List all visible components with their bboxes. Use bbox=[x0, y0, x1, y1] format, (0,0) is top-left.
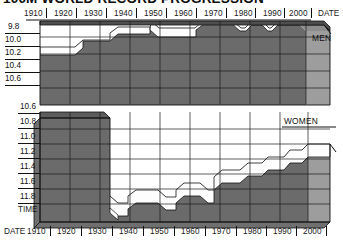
top-tickmark-1970 bbox=[226, 8, 227, 18]
top-tickmark-1950 bbox=[166, 8, 167, 18]
men-panel bbox=[40, 21, 331, 106]
men-yrule-3 bbox=[5, 59, 40, 60]
bottom-tickmark-1990 bbox=[296, 226, 297, 236]
bottom-tick-1980: 1980 bbox=[243, 227, 262, 236]
women-yrule-4 bbox=[18, 158, 40, 159]
top-tickmark-1930 bbox=[106, 8, 107, 18]
men-yrule-2 bbox=[5, 46, 40, 47]
bottom-tickmark-1960 bbox=[205, 226, 206, 236]
women-ytick-11.6: 11.6 bbox=[20, 177, 35, 186]
bottom-tick-1920: 1920 bbox=[57, 227, 76, 236]
top-tick-2000: 2000 bbox=[289, 9, 308, 18]
men-ytick-10.0: 10.0 bbox=[5, 35, 21, 44]
bottom-tickmark-1930 bbox=[112, 226, 113, 236]
bottom-tickmark-1940 bbox=[143, 226, 144, 236]
men-ytick-10.2: 10.2 bbox=[5, 48, 21, 57]
series-label-women: WOMEN bbox=[284, 116, 318, 126]
women-yrule-7 bbox=[18, 203, 40, 204]
bottom-axis-date-label: DATE bbox=[4, 227, 25, 236]
bottom-tick-1940: 1940 bbox=[119, 227, 138, 236]
top-tickmark-1920 bbox=[76, 8, 77, 18]
top-tick-1930: 1930 bbox=[84, 9, 103, 18]
top-tick-1940: 1940 bbox=[114, 9, 133, 18]
bottom-tick-1960: 1960 bbox=[181, 227, 200, 236]
top-tickmark-1910 bbox=[46, 8, 47, 18]
men-yrule-5 bbox=[5, 85, 40, 86]
bottom-tick-1990: 1990 bbox=[273, 227, 292, 236]
top-tickmark-2000 bbox=[311, 8, 312, 18]
bottom-tick-1950: 1950 bbox=[150, 227, 169, 236]
women-yrule-6 bbox=[18, 188, 40, 189]
top-tickmark-1990 bbox=[284, 8, 285, 18]
bottom-tick-1910: 1910 bbox=[27, 227, 46, 236]
top-tickmark-1960 bbox=[196, 8, 197, 18]
men-ytick-9.8: 9.8 bbox=[8, 22, 19, 31]
bottom-tick-1970: 1970 bbox=[212, 227, 231, 236]
top-axis-date-label: DATE bbox=[318, 9, 339, 18]
top-tick-1960: 1960 bbox=[174, 9, 193, 18]
women-yrule-2 bbox=[18, 128, 40, 129]
men-ytick-10.4: 10.4 bbox=[5, 61, 21, 70]
bottom-tickmark-1910 bbox=[50, 226, 51, 236]
top-tick-1910: 1910 bbox=[24, 9, 43, 18]
bottom-tick-1930: 1930 bbox=[88, 227, 107, 236]
chart-root: 100M WORLD RECORD PROGRESSION bbox=[0, 0, 343, 243]
women-ytick-11.0: 11.0 bbox=[20, 132, 35, 141]
men-yrule-4 bbox=[5, 72, 40, 73]
time-axis-label: TIME bbox=[18, 205, 38, 214]
women-yrule-5 bbox=[18, 173, 40, 174]
series-label-men: MEN bbox=[312, 33, 331, 43]
top-tick-1950: 1950 bbox=[144, 9, 163, 18]
bottom-tickmark-1920 bbox=[81, 226, 82, 236]
women-yrule-3 bbox=[18, 143, 40, 144]
bottom-tickmark-1970 bbox=[236, 226, 237, 236]
top-tick-1980: 1980 bbox=[234, 9, 253, 18]
men-yrule-1 bbox=[5, 33, 40, 34]
top-tick-1970: 1970 bbox=[204, 9, 223, 18]
top-tickmark-1980 bbox=[255, 8, 256, 18]
women-panel bbox=[34, 112, 336, 228]
women-ytick-10.6: 10.6 bbox=[20, 102, 36, 111]
women-leader-line bbox=[330, 144, 336, 152]
top-tick-1990: 1990 bbox=[263, 9, 282, 18]
women-yrule-1 bbox=[18, 113, 40, 114]
women-ytick-11.8: 11.8 bbox=[20, 192, 35, 201]
women-ytick-11.2: 11.2 bbox=[20, 147, 35, 156]
top-tickmark-1940 bbox=[136, 8, 137, 18]
bottom-tick-2000: 2000 bbox=[303, 227, 322, 236]
bottom-tickmark-1950 bbox=[174, 226, 175, 236]
bottom-tickmark-1980 bbox=[266, 226, 267, 236]
bottom-tickmark-2000 bbox=[326, 226, 327, 236]
men-ytick-10.6: 10.6 bbox=[5, 74, 21, 83]
women-left-top bbox=[40, 112, 110, 118]
women-ytick-10.8: 10.8 bbox=[20, 117, 36, 126]
top-tick-1920: 1920 bbox=[54, 9, 73, 18]
women-ytick-11.4: 11.4 bbox=[20, 162, 35, 171]
